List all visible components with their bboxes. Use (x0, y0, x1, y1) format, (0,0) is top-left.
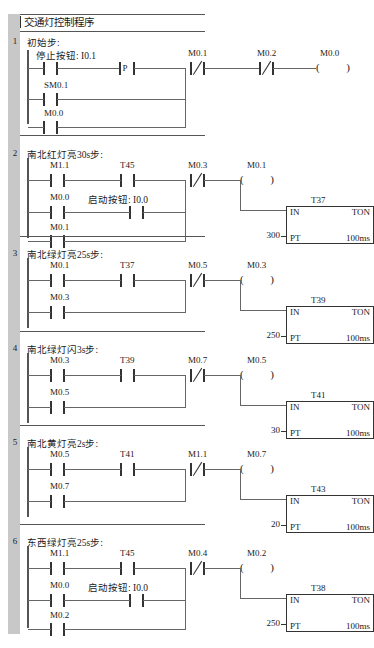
timer-block-t37[interactable]: IN TON PT 100ms (286, 206, 374, 244)
timer-preset-connector (281, 236, 286, 237)
contact-m01[interactable] (50, 274, 65, 287)
contact-m11-nc[interactable] (190, 463, 205, 476)
output-coil-m00[interactable]: ( ) (316, 62, 350, 75)
timer-branch-drop (240, 280, 241, 311)
contact-start-button[interactable] (129, 206, 144, 219)
contact-m02-nc[interactable] (259, 62, 274, 75)
network-1[interactable]: 1 初始步: 停止按钮: I0.1 P SM0.1 M0.0 M0.1 M0.2… (0, 36, 373, 126)
contact-label-start-button: 启动按钮: I0.0 (88, 580, 148, 594)
contact-t39[interactable] (120, 369, 135, 382)
network-4[interactable]: 4 南北绿灯闪3s步: M0.3 T39 M0.5 M0.7 M0.5 ( ) … (0, 343, 373, 423)
rung-wire (204, 180, 240, 181)
contact-m04-nc[interactable] (190, 562, 205, 575)
output-coil-m01[interactable]: ( ) (240, 174, 274, 187)
contact-label-m07: M0.7 (50, 481, 69, 491)
timer-name-t43: T43 (311, 484, 326, 494)
contact-m05[interactable] (50, 463, 65, 476)
timer-branch-drop (240, 568, 241, 599)
rung-wire (28, 280, 51, 281)
timer-preset-connector (281, 525, 286, 526)
network-divider (20, 524, 205, 525)
rung-wire (64, 375, 121, 376)
contact-m11[interactable] (50, 562, 65, 575)
rung-wire (134, 469, 186, 470)
contact-m05[interactable] (50, 401, 65, 414)
contact-m03-nc[interactable] (190, 174, 205, 187)
branch-wire (64, 212, 130, 213)
contact-stop-button[interactable] (43, 62, 58, 75)
timer-name-t38: T38 (311, 583, 326, 593)
timer-branch-drop (240, 469, 241, 500)
network-comment: 南北红灯亮30s步: (27, 147, 103, 161)
contact-t45[interactable] (120, 562, 135, 575)
contact-m07[interactable] (50, 495, 65, 508)
output-coil-m07[interactable]: ( ) (240, 463, 274, 476)
coil-label-m02: M0.2 (247, 548, 266, 558)
network-6[interactable]: 6 东西绿灯亮25s步: M1.1 T45 M0.0 启动按钮: I0.0 M0… (0, 536, 373, 628)
contact-label-m00: M0.0 (50, 192, 69, 202)
left-power-rail (27, 158, 29, 238)
timer-pt-label: PT (290, 333, 301, 343)
contact-m05-nc[interactable] (190, 274, 205, 287)
timer-preset-t37[interactable]: 300 (258, 230, 280, 240)
rung-wire (204, 469, 240, 470)
network-3[interactable]: 3 南北绿灯亮25s步: M0.1 T37 M0.3 M0.5 M0.3 ( )… (0, 248, 373, 328)
branch-wire (57, 99, 186, 100)
contact-label-t39: T39 (120, 355, 135, 365)
timer-branch-wire (240, 598, 287, 599)
network-2[interactable]: 2 南北红灯亮30s步: M1.1 T45 M0.0 启动按钮: I0.0 M0… (0, 148, 373, 240)
contact-m00[interactable] (50, 594, 65, 607)
left-power-rail (27, 258, 29, 328)
contact-m00[interactable] (50, 206, 65, 219)
timer-preset-t38[interactable]: 250 (258, 618, 280, 628)
coil-close-paren: ) (270, 173, 274, 186)
network-5[interactable]: 5 南北黄灯亮2s步: M0.5 T41 M0.7 M1.1 M0.7 ( ) … (0, 437, 373, 517)
timer-pt-label: PT (290, 233, 301, 243)
contact-t45[interactable] (120, 174, 135, 187)
contact-label-t37: T37 (120, 260, 135, 270)
branch-join (185, 180, 186, 242)
positive-transition-box[interactable]: P (119, 62, 135, 75)
rung-wire (28, 68, 44, 69)
timer-preset-t43[interactable]: 20 (258, 519, 280, 529)
timer-block-t41[interactable]: IN TON PT 100ms (286, 401, 374, 439)
contact-label-m02: M0.2 (257, 48, 276, 58)
branch-wire (28, 629, 51, 630)
contact-m02[interactable] (50, 623, 65, 636)
timer-block-t39[interactable]: IN TON PT 100ms (286, 306, 374, 344)
output-coil-m05[interactable]: ( ) (240, 369, 274, 382)
contact-m01-nc[interactable] (190, 62, 205, 75)
coil-open-paren: ( (316, 61, 320, 74)
contact-t41[interactable] (120, 463, 135, 476)
rung-wire (64, 180, 121, 181)
contact-t37[interactable] (120, 274, 135, 287)
network-number: 2 (10, 148, 20, 158)
coil-close-paren: ) (346, 61, 350, 74)
contact-label-m03: M0.3 (50, 292, 69, 302)
output-coil-m02[interactable]: ( ) (240, 562, 274, 575)
timer-preset-t41[interactable]: 30 (258, 425, 280, 435)
timer-block-t43[interactable]: IN TON PT 100ms (286, 495, 374, 533)
timer-block-t38[interactable]: IN TON PT 100ms (286, 594, 374, 632)
contact-m07-nc[interactable] (190, 369, 205, 382)
contact-sm01[interactable] (43, 93, 58, 106)
page-title: 交通灯控制程序 (24, 14, 94, 29)
branch-wire (64, 241, 186, 242)
contact-label-m11: M1.1 (188, 449, 207, 459)
timer-branch-drop (240, 180, 241, 211)
contact-label-m03: M0.3 (188, 160, 207, 170)
contact-m11[interactable] (50, 174, 65, 187)
network-number: 5 (10, 437, 20, 447)
contact-m03[interactable] (50, 369, 65, 382)
output-coil-m03[interactable]: ( ) (240, 274, 274, 287)
timer-in-label: IN (290, 207, 300, 217)
contact-m00[interactable] (43, 121, 58, 134)
timer-preset-t39[interactable]: 250 (258, 330, 280, 340)
branch-wire (143, 212, 186, 213)
rung-wire (134, 375, 186, 376)
branch-wire (64, 501, 186, 502)
contact-start-button[interactable] (129, 594, 144, 607)
p-transition-label: P (123, 62, 128, 75)
timer-type-label: TON (352, 207, 370, 217)
contact-m03[interactable] (50, 306, 65, 319)
